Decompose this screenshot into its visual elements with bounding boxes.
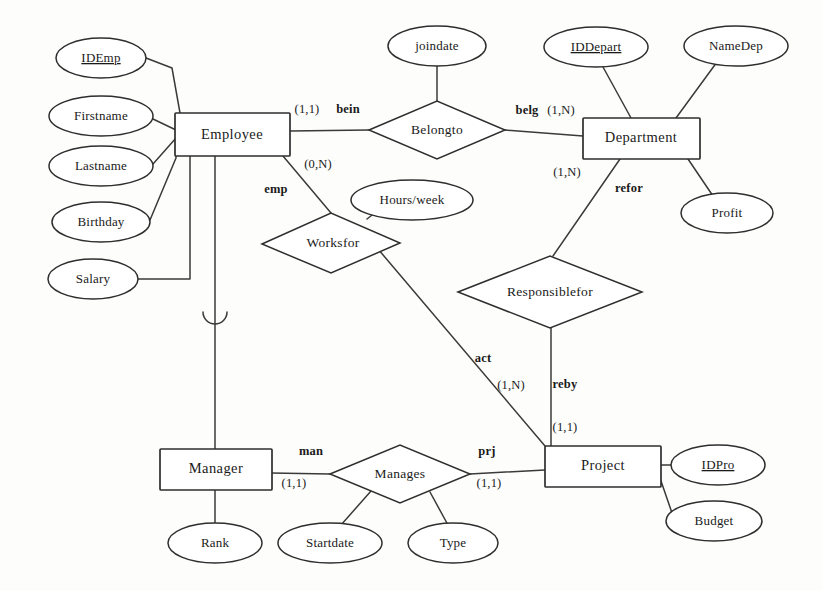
attribute-lastname-label: Lastname — [75, 158, 127, 173]
er-diagram-canvas: Employee Department Manager Project Belo… — [0, 0, 822, 591]
attribute-budget[interactable]: Budget — [666, 501, 762, 541]
entity-employee-label: Employee — [201, 126, 263, 142]
attribute-startdate[interactable]: Startdate — [278, 523, 382, 563]
relationship-belongto-label: Belongto — [411, 122, 463, 137]
cardinality-department-responsiblefor: (1,N) — [553, 165, 581, 179]
attribute-namedep-label: NameDep — [709, 38, 763, 53]
attribute-type-label: Type — [440, 535, 467, 550]
attribute-joindate[interactable]: joindate — [388, 26, 486, 66]
edge-project-budget — [661, 481, 672, 513]
relationship-belongto[interactable]: Belongto — [369, 101, 505, 159]
cardinality-project-manages: (1,1) — [477, 476, 502, 490]
attribute-idpro[interactable]: IDPro — [671, 445, 765, 485]
attribute-rank[interactable]: Rank — [168, 523, 262, 563]
edge-manages-project — [470, 470, 545, 474]
cardinality-manager-manages: (1,1) — [282, 476, 307, 490]
attribute-birthday[interactable]: Birthday — [52, 202, 150, 242]
entity-project[interactable]: Project — [545, 446, 661, 487]
relationship-manages-label: Manages — [375, 466, 426, 481]
edge-manages-type — [430, 492, 448, 525]
role-label-man: man — [299, 444, 323, 458]
role-label-reby: reby — [553, 377, 578, 391]
attribute-iddepart-label: IDDepart — [571, 39, 622, 54]
edge-manages-startdate — [341, 491, 371, 525]
attribute-iddepart[interactable]: IDDepart — [544, 27, 648, 67]
attribute-profit-label: Profit — [712, 205, 743, 220]
edge-belongto-department — [505, 130, 583, 136]
attribute-firstname[interactable]: Firstname — [49, 96, 153, 136]
entity-department-label: Department — [605, 129, 677, 145]
attribute-joindate-label: joindate — [414, 38, 459, 53]
edge-employee-firstname — [153, 119, 176, 130]
attribute-namedep[interactable]: NameDep — [684, 26, 788, 66]
attribute-firstname-label: Firstname — [74, 108, 128, 123]
attribute-type[interactable]: Type — [408, 523, 498, 563]
attribute-startdate-label: Startdate — [306, 535, 354, 550]
er-diagram-svg: Employee Department Manager Project Belo… — [0, 0, 822, 591]
attribute-rank-label: Rank — [201, 535, 230, 550]
attribute-idemp-label: IDEmp — [81, 50, 120, 65]
attribute-idemp[interactable]: IDEmp — [56, 38, 146, 78]
role-label-act: act — [475, 351, 492, 365]
edge-department-iddepart — [603, 67, 631, 118]
edge-manager-manages — [271, 473, 330, 474]
attribute-salary[interactable]: Salary — [48, 259, 138, 299]
attribute-hoursweek-label: Hours/week — [380, 192, 445, 207]
entity-project-label: Project — [581, 457, 625, 473]
relationship-worksfor-label: Worksfor — [306, 235, 359, 250]
edge-department-profit — [688, 159, 713, 196]
role-label-emp: emp — [264, 182, 288, 196]
edge-employee-lastname — [153, 138, 176, 164]
role-label-bein: bein — [336, 102, 360, 116]
attribute-salary-label: Salary — [76, 271, 111, 286]
relationship-responsiblefor-label: Responsiblefor — [507, 284, 593, 299]
edge-employee-belongto — [290, 130, 369, 131]
attribute-birthday-label: Birthday — [77, 214, 124, 229]
attribute-budget-label: Budget — [695, 513, 734, 528]
cardinality-department-belongto: (1,N) — [547, 103, 575, 117]
edge-employee-idemp — [146, 58, 180, 113]
role-label-belg: belg — [515, 103, 539, 117]
attribute-idpro-label: IDPro — [702, 457, 735, 472]
edge-department-namedep — [676, 62, 717, 118]
role-label-prj: prj — [478, 444, 495, 458]
entity-manager[interactable]: Manager — [160, 449, 272, 490]
entity-department[interactable]: Department — [583, 118, 700, 159]
attribute-hoursweek[interactable]: Hours/week — [351, 180, 473, 220]
cardinality-project-worksfor: (1,N) — [497, 378, 525, 392]
relationship-manages[interactable]: Manages — [330, 445, 470, 503]
attribute-profit[interactable]: Profit — [681, 193, 773, 233]
cardinality-project-responsiblefor: (1,1) — [553, 420, 578, 434]
relationship-worksfor[interactable]: Worksfor — [262, 213, 400, 273]
entity-manager-label: Manager — [189, 460, 243, 476]
attribute-lastname[interactable]: Lastname — [49, 146, 153, 186]
relationship-responsiblefor[interactable]: Responsiblefor — [458, 256, 642, 328]
role-label-refor: refor — [615, 181, 643, 195]
edge-employee-birthday — [150, 156, 176, 220]
cardinality-employee-worksfor: (0,N) — [304, 157, 332, 171]
cardinality-employee-belongto: (1,1) — [295, 102, 320, 116]
entity-employee[interactable]: Employee — [175, 113, 290, 156]
